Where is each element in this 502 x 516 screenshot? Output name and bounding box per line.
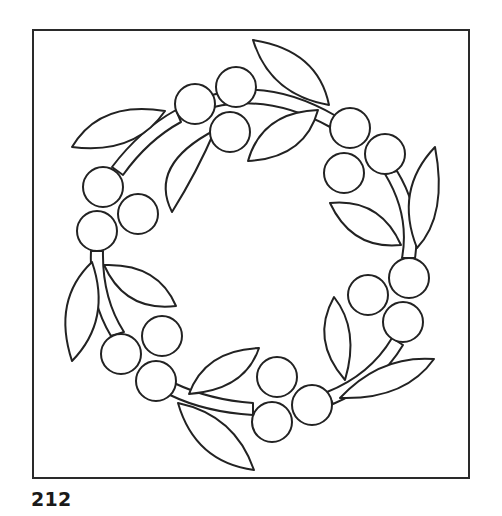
berry [383, 302, 423, 342]
berry [175, 84, 215, 124]
leaf [104, 265, 176, 307]
berry [142, 316, 182, 356]
berry [77, 211, 117, 251]
berry [348, 275, 388, 315]
berry-wreath-illustration [0, 0, 502, 516]
leaf [166, 130, 215, 212]
berry [389, 258, 429, 298]
berry [365, 134, 405, 174]
berry [330, 108, 370, 148]
berry [252, 402, 292, 442]
berry [83, 167, 123, 207]
berry [210, 112, 250, 152]
leaf [330, 203, 401, 246]
leaf [324, 297, 350, 380]
berry [292, 385, 332, 425]
leaf [189, 348, 259, 394]
leaf [409, 147, 439, 248]
berry [136, 361, 176, 401]
page-number: 212 [31, 490, 72, 509]
leaf [248, 110, 318, 161]
berry [118, 194, 158, 234]
berry [324, 153, 364, 193]
berry [101, 334, 141, 374]
berry [216, 67, 256, 107]
leaf [65, 262, 98, 361]
berry [257, 357, 297, 397]
